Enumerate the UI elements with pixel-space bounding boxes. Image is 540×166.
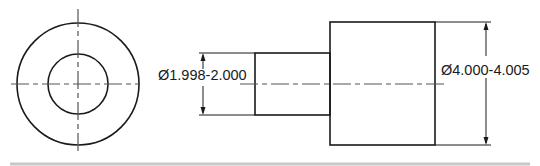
- large-diameter-label: Ø4.000-4.005: [441, 62, 530, 78]
- arrowhead-down: [201, 107, 206, 115]
- arrowhead-down: [484, 137, 489, 145]
- large-diameter-dimension: Ø4.000-4.005: [435, 22, 530, 145]
- technical-drawing: Ø1.998-2.000 Ø4.000-4.005: [0, 0, 540, 166]
- arrowhead-up: [484, 22, 489, 30]
- arrowhead-up: [201, 53, 206, 61]
- small-diameter-label: Ø1.998-2.000: [158, 67, 247, 83]
- side-view: [240, 22, 448, 145]
- end-view: [11, 9, 139, 155]
